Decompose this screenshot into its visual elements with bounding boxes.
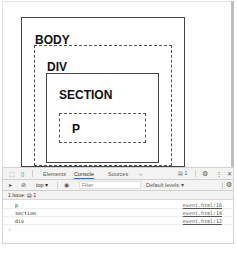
devtools-tab-bar: ⬚ ▯ Elements Console Sources » ▤ 1 ⚙ ⋮ ✕ <box>3 168 233 180</box>
filter-input[interactable]: Filter <box>79 181 141 189</box>
console-message: section <box>15 209 36 217</box>
console-row: section event.html:14 <box>3 209 233 217</box>
sidebar-toggle-icon[interactable]: ▸ <box>9 182 12 188</box>
console-message: div <box>15 217 24 225</box>
tab-console[interactable]: Console <box>74 171 94 179</box>
inspect-element-icon[interactable]: ⬚ <box>9 171 15 177</box>
source-link[interactable]: event.html:16 <box>183 201 222 209</box>
more-tabs-icon[interactable]: » <box>139 171 142 177</box>
divider <box>57 182 58 189</box>
divider <box>195 170 196 177</box>
div-label: DIV <box>47 60 67 74</box>
source-link[interactable]: event.html:14 <box>183 209 222 217</box>
divider <box>32 170 33 177</box>
console-prompt[interactable]: › <box>3 225 233 233</box>
p-label: P <box>72 122 80 136</box>
console-row: p event.html:16 <box>3 201 233 209</box>
issues-label: 1 Issue: ▤ 1 <box>8 192 36 198</box>
page-scrollbar[interactable] <box>231 1 234 167</box>
clear-console-icon[interactable]: ⊘ <box>21 182 26 188</box>
issues-badge-count: 1 <box>184 170 187 176</box>
tab-elements[interactable]: Elements <box>43 171 66 177</box>
issues-bar[interactable]: 1 Issue: ▤ 1 <box>3 191 233 200</box>
prompt-chevron-icon: › <box>8 225 11 233</box>
console-toolbar: ▸ ⊘ top ▾ ◉ Filter Default levels ▾ ⚙ <box>3 180 233 191</box>
console-settings-gear-icon[interactable]: ⚙ <box>226 181 232 188</box>
context-selector[interactable]: top ▾ <box>36 182 48 188</box>
console-message: p <box>15 201 18 209</box>
devtools-panel: ⬚ ▯ Elements Console Sources » ▤ 1 ⚙ ⋮ ✕… <box>2 167 234 244</box>
tab-sources[interactable]: Sources <box>108 171 128 177</box>
console-row: div event.html:12 <box>3 217 233 225</box>
live-expression-eye-icon[interactable]: ◉ <box>64 182 69 188</box>
divider <box>222 182 223 189</box>
device-toolbar-icon[interactable]: ▯ <box>21 171 24 177</box>
page-viewport: BODY DIV SECTION P <box>2 1 232 168</box>
source-link[interactable]: event.html:12 <box>183 217 222 225</box>
issues-badge[interactable]: ▤ 1 <box>178 171 187 176</box>
settings-gear-icon[interactable]: ⚙ <box>202 170 208 177</box>
p-box[interactable]: P <box>59 113 146 143</box>
more-options-icon[interactable]: ⋮ <box>216 171 222 177</box>
log-levels-dropdown[interactable]: Default levels ▾ <box>146 182 184 188</box>
section-label: SECTION <box>59 88 112 102</box>
close-icon[interactable]: ✕ <box>227 171 232 177</box>
